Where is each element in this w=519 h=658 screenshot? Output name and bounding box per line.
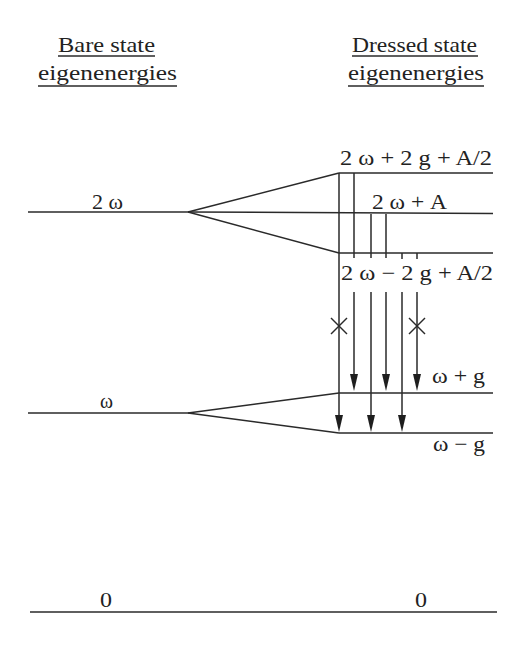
level-w-manifold: ω ω + g ω − g [28,364,493,456]
dressed-level-2w+A-line [188,212,493,214]
bare-level-w-label: ω [100,389,113,413]
dressed-level-w+g-label: ω + g [432,364,486,388]
arrowhead-icon [382,374,390,391]
dressed-level-2w+A-label: 2 ω + A [372,190,448,214]
transition-arrow [382,214,390,391]
dressed-level-2w+2g+A/2-label: 2 ω + 2 g + A/2 [340,146,492,170]
split-line-w-upper [188,393,339,413]
bare-level-0-label: 0 [100,588,112,612]
arrowhead-icon [413,374,421,391]
transition-arrow [367,214,375,432]
dressed-level-0-label: 0 [415,588,427,612]
dressed-header-line2: eigenenergies [348,60,484,85]
dressed-level-w-g-label: ω − g [433,432,486,456]
bare-header-line1: Bare state [58,32,155,57]
split-line-lower [188,212,339,253]
bare-level-2w-label: 2 ω [92,190,123,214]
split-line-upper [188,173,339,212]
level-0: 0 0 [30,588,497,612]
energy-level-diagram: Bare state eigenenergies Dressed state e… [0,0,519,658]
arrowhead-icon [367,415,375,432]
arrowhead-icon [350,374,358,391]
split-line-w-lower [188,413,339,433]
level-2w-manifold: 2 ω 2 ω + 2 g + A/2 2 ω + A 2 ω − 2 g + … [28,146,493,285]
dressed-level-2w-2g+A/2-label: 2 ω − 2 g + A/2 [341,261,493,285]
dressed-header-line1: Dressed state [352,32,477,57]
bare-header-line2: eigenenergies [38,60,177,85]
bare-state-header: Bare state eigenenergies [38,32,177,86]
dressed-state-header: Dressed state eigenenergies [348,32,484,86]
arrowhead-icon [398,415,406,432]
arrowhead-icon [335,415,343,432]
